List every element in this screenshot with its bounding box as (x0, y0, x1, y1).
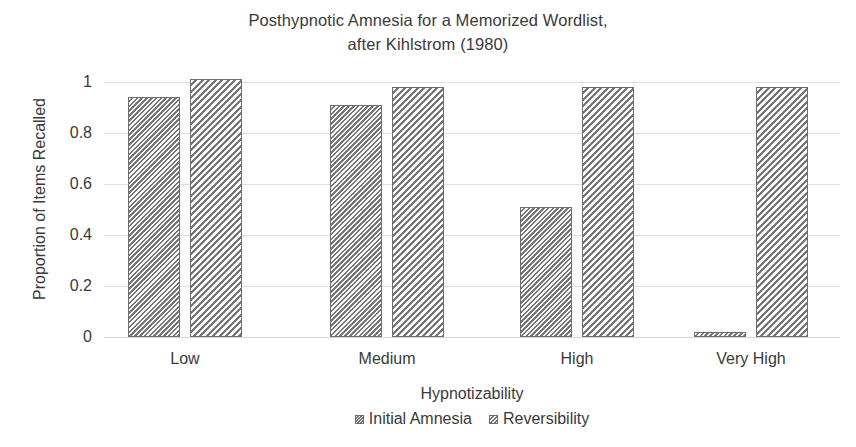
x-tick-label-low: Low (170, 350, 199, 368)
y-tick-label-0.2: 0.2 (70, 277, 92, 295)
chart-title-line-1: Posthypnotic Amnesia for a Memorized Wor… (248, 11, 607, 29)
bar-low-initial-amnesia (128, 97, 180, 337)
legend-swatch-icon-initial-amnesia (355, 415, 364, 424)
x-axis-title: Hypnotizability (104, 385, 840, 403)
chart-figure: Posthypnotic Amnesia for a Memorized Wor… (0, 0, 856, 447)
x-tick-label-high: High (561, 350, 594, 368)
y-tick-label-0.4: 0.4 (70, 226, 92, 244)
legend-label-reversibility: Reversibility (503, 410, 589, 428)
x-tick-label-medium: Medium (359, 350, 416, 368)
bar-very-high-initial-amnesia (694, 332, 746, 337)
bar-group-medium (330, 82, 444, 337)
bar-group-very-high (694, 82, 808, 337)
y-tick-label-0.8: 0.8 (70, 124, 92, 142)
bar-medium-reversibility (392, 87, 444, 337)
chart-legend: Initial Amnesia Reversibility (104, 410, 840, 428)
bar-low-reversibility (190, 79, 242, 337)
legend-item-reversibility: Reversibility (489, 410, 589, 428)
gridline-0 (104, 337, 840, 338)
bar-group-high (520, 82, 634, 337)
legend-swatch-icon-reversibility (489, 415, 498, 424)
legend-label-initial-amnesia: Initial Amnesia (369, 410, 472, 428)
y-tick-label-1: 1 (83, 73, 92, 91)
bar-high-reversibility (582, 87, 634, 337)
legend-item-initial-amnesia: Initial Amnesia (355, 410, 472, 428)
bar-medium-initial-amnesia (330, 105, 382, 337)
y-tick-label-0: 0 (83, 328, 92, 346)
plot-area: Proportion of Items Recalled 1 0.8 0.6 0… (104, 82, 840, 337)
chart-title: Posthypnotic Amnesia for a Memorized Wor… (0, 8, 856, 56)
bar-very-high-reversibility (756, 87, 808, 337)
y-tick-label-0.6: 0.6 (70, 175, 92, 193)
x-tick-label-very-high: Very High (716, 350, 785, 368)
y-axis-title: Proportion of Items Recalled (31, 49, 49, 349)
bar-high-initial-amnesia (520, 207, 572, 337)
chart-title-line-2: after Kihlstrom (1980) (0, 32, 856, 56)
bar-group-low (128, 82, 242, 337)
